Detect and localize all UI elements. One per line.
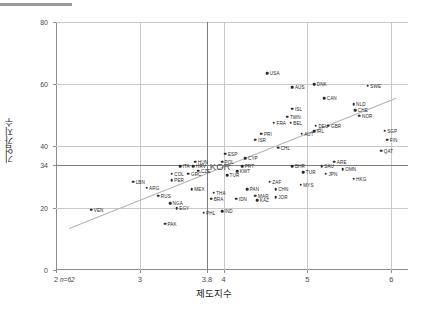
data-point bbox=[333, 160, 336, 163]
x-gridline bbox=[391, 22, 392, 270]
point-label: GBR bbox=[331, 123, 341, 128]
data-point bbox=[380, 149, 383, 152]
data-point bbox=[383, 129, 386, 132]
point-label: QAT bbox=[384, 148, 393, 153]
y-tick-label: 60 bbox=[26, 81, 48, 88]
x-tick-mark bbox=[224, 270, 225, 273]
data-point bbox=[164, 222, 167, 225]
data-point bbox=[179, 165, 182, 168]
point-label: ZAF bbox=[272, 179, 281, 184]
point-label: ESP bbox=[228, 151, 238, 156]
data-point bbox=[291, 86, 294, 89]
x-tick-mark bbox=[207, 270, 208, 273]
point-label: ISL bbox=[295, 106, 302, 111]
data-point bbox=[210, 197, 213, 200]
y-tick-label: 0 bbox=[26, 267, 48, 274]
data-point bbox=[192, 165, 195, 168]
point-label: PRT bbox=[245, 164, 254, 169]
point-label: MYS bbox=[303, 182, 313, 187]
y-axis-label: 기업가지수 bbox=[2, 118, 15, 163]
kor-vertical-reference-line bbox=[207, 22, 208, 270]
point-label: JOR bbox=[278, 195, 288, 200]
point-label: LBN bbox=[136, 179, 145, 184]
data-point bbox=[325, 173, 328, 176]
kor-highlight-label: KOR bbox=[210, 160, 231, 171]
data-point bbox=[320, 165, 323, 168]
point-label: IRL bbox=[317, 129, 324, 134]
data-point bbox=[291, 108, 294, 111]
point-label: PRI bbox=[264, 131, 272, 136]
point-label: PER bbox=[174, 178, 184, 183]
point-label: PHL bbox=[206, 210, 215, 215]
point-label: ITA bbox=[183, 164, 190, 169]
point-label: CAN bbox=[327, 95, 337, 100]
data-point bbox=[254, 194, 257, 197]
x-tick-mark bbox=[307, 270, 308, 273]
data-point bbox=[386, 139, 389, 142]
point-label: NOR bbox=[362, 113, 373, 118]
sample-size-note: n=62 bbox=[60, 276, 75, 283]
point-label: DNK bbox=[317, 82, 327, 87]
y-gridline bbox=[56, 84, 408, 85]
data-point bbox=[246, 188, 249, 191]
data-point bbox=[190, 188, 193, 191]
data-point bbox=[235, 197, 238, 200]
data-point bbox=[224, 152, 227, 155]
point-label: TUR bbox=[306, 170, 316, 175]
x-gridline bbox=[307, 22, 308, 270]
point-label: USA bbox=[270, 71, 280, 76]
data-point bbox=[187, 173, 190, 176]
data-point bbox=[289, 121, 292, 124]
point-label: CHE bbox=[358, 108, 368, 113]
point-label: CYP bbox=[248, 156, 258, 161]
point-label: SAU bbox=[324, 164, 334, 169]
data-point bbox=[358, 114, 361, 117]
data-point bbox=[226, 174, 229, 177]
data-point bbox=[341, 168, 344, 171]
x-gridline bbox=[224, 22, 225, 270]
point-label: PAK bbox=[168, 221, 177, 226]
point-label: EGY bbox=[179, 206, 189, 211]
y-gridline bbox=[56, 146, 408, 147]
point-label: VEN bbox=[94, 207, 104, 212]
data-point bbox=[241, 165, 244, 168]
point-label: PAN bbox=[250, 187, 259, 192]
x-tick-label: 5 bbox=[294, 275, 320, 284]
y-gridline bbox=[56, 22, 408, 23]
data-point bbox=[274, 188, 277, 191]
data-point bbox=[366, 84, 369, 87]
y-tick-mark bbox=[53, 208, 56, 209]
point-label: COL bbox=[174, 171, 184, 176]
data-point bbox=[175, 207, 178, 210]
point-label: BEL bbox=[293, 120, 302, 125]
data-point bbox=[90, 208, 93, 211]
y-tick-mark bbox=[53, 84, 56, 85]
y-tick-mark bbox=[53, 22, 56, 23]
x-gridline bbox=[140, 22, 141, 270]
data-point bbox=[212, 191, 215, 194]
data-point bbox=[315, 125, 318, 128]
x-tick-mark bbox=[140, 270, 141, 273]
x-tick-label: 3 bbox=[127, 275, 153, 284]
x-tick-label: 4 bbox=[211, 275, 237, 284]
data-point bbox=[266, 72, 269, 75]
x-tick-mark bbox=[56, 270, 57, 273]
point-label: GRC bbox=[191, 171, 202, 176]
point-label: SGP bbox=[387, 128, 397, 133]
point-label: SWE bbox=[370, 83, 381, 88]
data-point bbox=[327, 125, 330, 128]
data-point bbox=[260, 132, 263, 135]
data-point bbox=[300, 132, 303, 135]
point-label: FIN bbox=[390, 137, 398, 142]
data-point bbox=[254, 139, 257, 142]
x-tick-label: 6 bbox=[378, 275, 404, 284]
data-point bbox=[286, 115, 289, 118]
point-label: KAZ bbox=[260, 198, 269, 203]
data-point bbox=[302, 171, 305, 174]
point-label: RUS bbox=[161, 193, 171, 198]
point-label: MEX bbox=[194, 187, 204, 192]
point-label: TUR bbox=[230, 173, 240, 178]
point-label: AUS bbox=[295, 85, 305, 90]
data-point bbox=[277, 146, 280, 149]
point-label: IND bbox=[225, 209, 233, 214]
